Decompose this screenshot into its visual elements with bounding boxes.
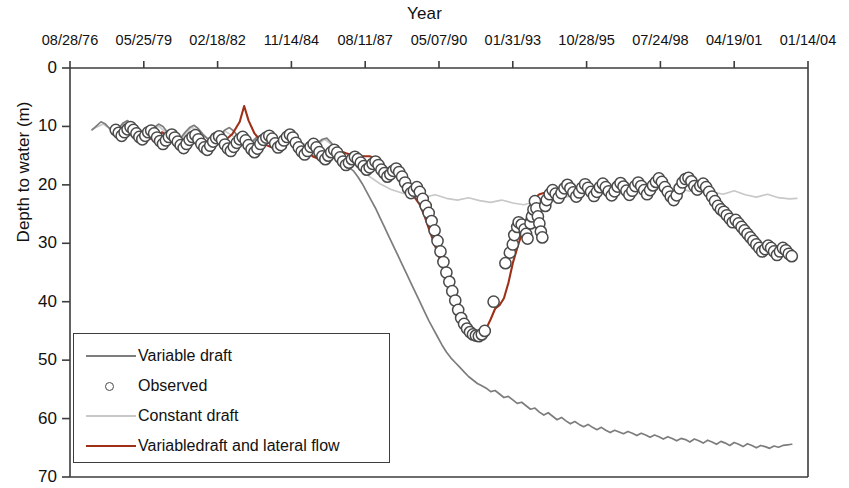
chart-legend: Variable draftObservedConstant draftVari…: [73, 333, 390, 463]
legend-item-label: Variable draft: [138, 347, 232, 365]
legend-item: Variabledraft and lateral flow: [74, 430, 389, 462]
line-swatch-icon: [86, 445, 136, 447]
chart-figure: Year 08/28/7605/25/7902/18/8211/14/8408/…: [0, 0, 849, 488]
line-swatch-icon: [86, 355, 136, 357]
legend-line-swatch-icon: [80, 430, 138, 462]
legend-item: Variable draft: [74, 340, 389, 372]
legend-item-label: Constant draft: [138, 407, 239, 425]
legend-item: Constant draft: [74, 400, 389, 432]
legend-line-swatch-icon: [80, 340, 138, 372]
open-circle-icon: [105, 382, 114, 391]
series-observed: [110, 121, 797, 341]
legend-item-label: Observed: [138, 377, 207, 395]
legend-circle-marker-icon: [80, 370, 138, 402]
legend-item-label: Variabledraft and lateral flow: [138, 437, 340, 455]
line-swatch-icon: [86, 415, 136, 417]
legend-line-swatch-icon: [80, 400, 138, 432]
legend-item: Observed: [74, 370, 389, 402]
